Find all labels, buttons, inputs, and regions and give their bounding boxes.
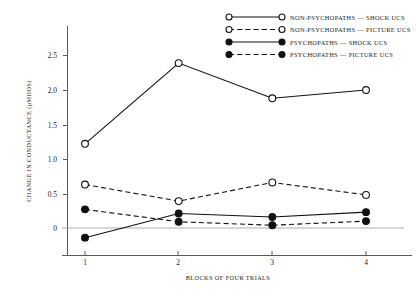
data-point [363, 218, 370, 225]
data-point [269, 222, 276, 229]
data-point [269, 95, 276, 102]
y-tick-label-1-5: 1.5 [48, 121, 58, 130]
data-point [363, 191, 370, 198]
data-point [175, 218, 182, 225]
data-point [269, 214, 276, 221]
y-tick-label-0-5: 0.5 [48, 190, 58, 199]
y-tick-label-2-0: 2.0 [48, 86, 58, 95]
legend-marker-filled-circle-solid [226, 39, 232, 45]
legend-marker-open-circle-dashed [226, 27, 232, 33]
x-tick-label-2: 2 [176, 258, 180, 267]
legend-label-non-psychopaths-shock: NON-PSYCHOPATHS — SHOCK UCS [290, 14, 405, 21]
data-point [82, 206, 89, 213]
data-point [175, 210, 182, 217]
data-point [269, 179, 276, 186]
legend-label-non-psychopaths-picture: NON-PSYCHOPATHS — PICTURE UCS [290, 26, 411, 33]
data-point [175, 198, 182, 205]
legend-marker-open-circle-dashed-end [279, 27, 285, 33]
x-axis-title: BLOCKS OF FOUR TRIALS [186, 274, 271, 281]
data-point [175, 60, 182, 67]
legend-label-psychopaths-shock: PSYCHOPATHS — SHOCK UCS [290, 39, 388, 46]
y-tick-label-0: 0 [53, 224, 57, 233]
y-axis-title: CHANGE IN CONDUCTANCE (μMHOS) [25, 80, 33, 202]
legend-label-psychopaths-picture: PSYCHOPATHS — PICTURE UCS [290, 51, 393, 58]
data-point [82, 140, 89, 147]
line-chart-svg: 2.5 2.0 1.5 1.0 0.5 0 1 2 3 4 CHANGE IN … [0, 0, 419, 296]
data-point [82, 181, 89, 188]
y-tick-label-2-5: 2.5 [48, 51, 58, 60]
data-point [82, 234, 89, 241]
legend-marker-filled-circle-dashed [226, 52, 232, 58]
y-tick-label-1-0: 1.0 [48, 155, 58, 164]
chart-figure: 2.5 2.0 1.5 1.0 0.5 0 1 2 3 4 CHANGE IN … [0, 0, 419, 296]
x-tick-label-3: 3 [270, 258, 274, 267]
x-tick-label-1: 1 [83, 258, 87, 267]
data-point [363, 209, 370, 216]
legend-marker-open-circle-solid-end [279, 14, 285, 20]
legend-marker-filled-circle-dashed-end [279, 52, 285, 58]
data-point [363, 87, 370, 94]
legend-marker-open-circle-solid [226, 14, 232, 20]
x-tick-label-4: 4 [364, 258, 368, 267]
legend-marker-filled-circle-solid-end [279, 39, 285, 45]
